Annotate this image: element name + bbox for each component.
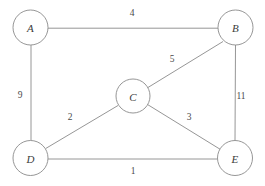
- edge-weight-c-b: 5: [170, 54, 175, 64]
- nodes-group: A B C D E: [13, 10, 253, 176]
- node-e[interactable]: E: [218, 141, 253, 176]
- edge-weight-d-e: 1: [131, 166, 136, 176]
- edge-weight-a-d: 9: [18, 90, 23, 100]
- edge-weight-a-b: 4: [130, 8, 135, 18]
- node-a[interactable]: A: [13, 10, 48, 45]
- node-c-label: C: [129, 91, 137, 103]
- node-d[interactable]: D: [13, 141, 48, 176]
- edge-weight-c-e: 3: [187, 112, 192, 122]
- node-b[interactable]: B: [218, 10, 253, 45]
- edge-weight-b-e: 11: [236, 91, 245, 101]
- edge-b-e: [235, 45, 236, 141]
- node-a-label: A: [26, 22, 34, 34]
- edge-d-c: [46, 106, 118, 149]
- edge-weight-d-c: 2: [68, 112, 73, 122]
- node-c[interactable]: C: [116, 79, 150, 113]
- node-e-label: E: [231, 153, 239, 165]
- node-b-label: B: [232, 22, 239, 34]
- edge-c-e: [148, 105, 221, 150]
- edge-c-b: [148, 42, 223, 88]
- node-d-label: D: [25, 153, 34, 165]
- graph-canvas: A B C D E 4 9 5 11 2 3: [0, 0, 265, 186]
- graph-diagram: A B C D E 4 9 5 11 2 3: [0, 0, 265, 186]
